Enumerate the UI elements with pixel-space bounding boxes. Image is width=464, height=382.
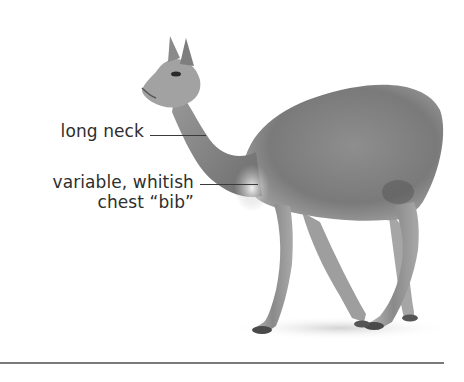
label-chest-bib-line2: chest “bib”: [30, 192, 194, 212]
chest-bib: [234, 164, 270, 212]
near-fore-leg: [252, 204, 293, 334]
fore-hoof: [252, 326, 272, 334]
label-chest-bib-line1: variable, whitish: [30, 172, 194, 192]
body: [244, 85, 443, 221]
left-ear: [168, 36, 180, 62]
leader-line-neck: [150, 135, 206, 136]
bottom-rule: [0, 362, 444, 364]
head: [142, 59, 200, 108]
far-hind-hoof: [402, 315, 418, 322]
leader-line-bib: [200, 184, 258, 185]
far-fore-hoof: [354, 321, 370, 328]
far-fore-leg: [302, 212, 366, 322]
eye: [171, 72, 181, 77]
figure-stage: long neck variable, whitish chest “bib”: [0, 0, 464, 382]
label-long-neck: long neck: [40, 121, 144, 141]
right-ear: [180, 38, 194, 66]
haunch-shadow: [382, 180, 414, 204]
